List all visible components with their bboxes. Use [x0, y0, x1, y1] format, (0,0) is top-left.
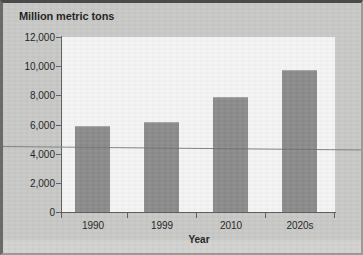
- x-axis-title: Year: [188, 234, 209, 245]
- x-tick-label-2010: 2010: [220, 220, 242, 231]
- x-tick-label-1999: 1999: [151, 220, 173, 231]
- chart-screenshot: Million metric tons 0 2,000 4,000 6,000 …: [0, 0, 363, 255]
- y-tick-mark-4000: [56, 154, 61, 155]
- y-tick-mark-2000: [56, 183, 61, 184]
- bar-2010: [213, 97, 248, 212]
- y-axis-labels: 0 2,000 4,000 6,000 8,000 10,000 12,000: [0, 0, 55, 255]
- y-tick-mark-6000: [56, 125, 61, 126]
- x-tick-label-2020s: 2020s: [286, 220, 313, 231]
- x-tick-mark-end: [334, 213, 335, 218]
- y-tick-label-6000: 6,000: [30, 120, 55, 131]
- y-tick-label-10000: 10,000: [24, 61, 55, 72]
- y-tick-label-2000: 2,000: [30, 178, 55, 189]
- x-tick-mark-1: [127, 213, 128, 218]
- y-tick-label-4000: 4,000: [30, 149, 55, 160]
- x-tick-label-1990: 1990: [82, 220, 104, 231]
- y-tick-mark-10000: [56, 66, 61, 67]
- x-tick-mark-start: [61, 213, 62, 218]
- y-tick-label-8000: 8,000: [30, 90, 55, 101]
- y-tick-label-12000: 12,000: [24, 32, 55, 43]
- bar-1999: [144, 122, 179, 212]
- x-tick-mark-2: [196, 213, 197, 218]
- x-axis-line: [61, 212, 336, 213]
- bar-1990: [75, 126, 110, 212]
- y-axis-line: [61, 36, 62, 213]
- y-tick-mark-8000: [56, 95, 61, 96]
- bar-2020s: [282, 70, 317, 212]
- y-tick-label-0: 0: [49, 207, 55, 218]
- x-tick-mark-3: [265, 213, 266, 218]
- y-tick-mark-12000: [56, 37, 61, 38]
